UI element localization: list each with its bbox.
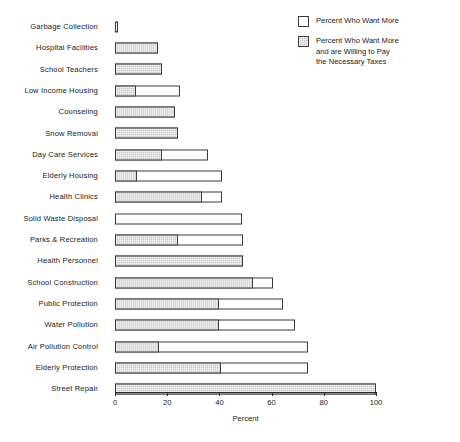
legend-label: Percent Who Want More and are Willing to…	[316, 36, 399, 68]
row-label: Day Care Services	[0, 151, 98, 159]
bar-segment-willing-to-pay	[115, 106, 175, 117]
row-label: Public Protection	[0, 300, 98, 308]
row-label: Hospital Facilities	[0, 44, 98, 52]
row-label: Air Pollution Control	[0, 343, 98, 351]
bar-area	[115, 85, 180, 96]
legend-item: Percent Who Want More and are Willing to…	[298, 36, 448, 68]
legend-label: Percent Who Want More	[316, 16, 399, 27]
bar-area	[115, 256, 243, 267]
row-label: School Construction	[0, 279, 98, 287]
row-label: Low Income Housing	[0, 87, 98, 95]
bar-segment-willing-to-pay	[115, 192, 202, 203]
bar-segment-want-more	[115, 213, 242, 224]
bar-area	[115, 234, 243, 245]
bar-segment-willing-to-pay	[115, 149, 162, 160]
row-label: Water Pollution	[0, 321, 98, 329]
bar-area	[115, 341, 308, 352]
bar-area	[115, 362, 308, 373]
bar-area	[115, 298, 283, 309]
chart-row: Counseling	[0, 101, 460, 122]
bar-segment-willing-to-pay	[115, 362, 221, 373]
legend-swatch-filled-icon	[298, 36, 309, 47]
bar-segment-willing-to-pay	[115, 42, 158, 53]
bar-segment-willing-to-pay	[115, 277, 253, 288]
x-axis-tick	[219, 392, 220, 396]
x-axis-tick	[324, 392, 325, 396]
chart-row: Low Income Housing	[0, 80, 460, 101]
x-axis-tick-label: 100	[370, 398, 383, 407]
bar-segment-willing-to-pay	[115, 170, 137, 181]
row-label: Snow Removal	[0, 130, 98, 138]
bar-segment-willing-to-pay	[115, 128, 178, 139]
bar-area	[115, 106, 175, 117]
chart-row: Water Pollution	[0, 315, 460, 336]
bar-area	[115, 149, 208, 160]
x-axis-tick-label: 80	[320, 398, 328, 407]
chart-row: Snow Removal	[0, 123, 460, 144]
bar-area	[115, 64, 162, 75]
chart-row: School Construction	[0, 272, 460, 293]
bar-segment-willing-to-pay	[115, 64, 162, 75]
bar-area	[115, 170, 222, 181]
chart-row: Parks & Recreation	[0, 229, 460, 250]
chart-row: Air Pollution Control	[0, 336, 460, 357]
legend-item: Percent Who Want More	[298, 16, 448, 27]
x-axis-line	[115, 392, 376, 393]
x-axis-tick	[115, 392, 116, 396]
bar-area	[115, 21, 118, 32]
chart-row: Elderly Protection	[0, 357, 460, 378]
row-label: Health Clinics	[0, 193, 98, 201]
row-label: Elderly Housing	[0, 172, 98, 180]
bar-area	[115, 213, 242, 224]
x-axis-tick-label: 60	[267, 398, 275, 407]
row-label: Health Personnel	[0, 257, 98, 265]
row-label: Parks & Recreation	[0, 236, 98, 244]
bar-segment-willing-to-pay	[115, 320, 219, 331]
chart-legend: Percent Who Want MorePercent Who Want Mo…	[298, 16, 448, 77]
bar-area	[115, 128, 178, 139]
row-label: Garbage Collection	[0, 23, 98, 31]
row-label: Solid Waste Disposal	[0, 215, 98, 223]
bar-segment-willing-to-pay	[115, 298, 219, 309]
chart-row: Elderly Housing	[0, 165, 460, 186]
bar-area	[115, 320, 295, 331]
bar-area	[115, 192, 222, 203]
x-axis-tick-label: 0	[113, 398, 117, 407]
row-label: School Teachers	[0, 66, 98, 74]
bar-segment-willing-to-pay	[115, 234, 178, 245]
bar-segment-willing-to-pay	[115, 256, 243, 267]
chart-row: Health Personnel	[0, 251, 460, 272]
bar-segment-willing-to-pay	[115, 341, 159, 352]
legend-swatch-open-icon	[298, 16, 309, 27]
bar-area	[115, 42, 158, 53]
x-axis-tick-label: 40	[215, 398, 223, 407]
bar-area	[115, 277, 273, 288]
chart-row: Solid Waste Disposal	[0, 208, 460, 229]
x-axis-tick	[376, 392, 377, 396]
x-axis: 020406080100 Percent	[0, 392, 460, 432]
bar-segment-want-more	[115, 21, 118, 32]
x-axis-tick-label: 20	[163, 398, 171, 407]
bar-segment-willing-to-pay	[115, 85, 136, 96]
row-label: Elderly Protection	[0, 364, 98, 372]
x-axis-tick	[167, 392, 168, 396]
chart-row: Day Care Services	[0, 144, 460, 165]
chart-row: Public Protection	[0, 293, 460, 314]
row-label: Counseling	[0, 108, 98, 116]
horizontal-stacked-bar-chart: Garbage CollectionHospital FacilitiesSch…	[0, 0, 460, 442]
chart-row: Health Clinics	[0, 187, 460, 208]
x-axis-title: Percent	[115, 414, 376, 423]
x-axis-tick	[272, 392, 273, 396]
